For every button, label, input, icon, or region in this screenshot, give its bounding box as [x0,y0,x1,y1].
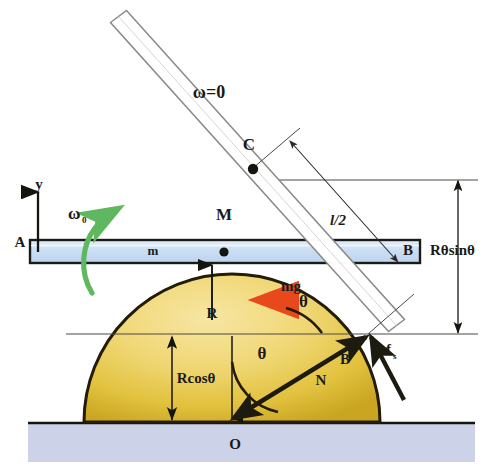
radius-label: R [207,305,218,321]
contact-point-b-label: B [340,351,350,367]
physics-diagram-figure: ω=0 C l/2 y ω 0 A m M B Rθsinθ mg θ R θ … [0,0,503,472]
theta-lower-label: θ [258,344,267,363]
friction-base-label: f [386,341,392,357]
omega-initial-base: ω [68,204,80,223]
half-length-label: l/2 [330,212,346,228]
theta-upper-label: θ [299,292,308,311]
center-of-mass-point [248,164,258,174]
diagram-canvas: ω=0 C l/2 y ω 0 A m M B Rθsinθ mg θ R θ … [0,0,503,472]
normal-force-label: N [316,372,327,388]
omega-initial-subscript: 0 [82,215,87,225]
rcos-theta-label: Rcosθ [177,370,216,386]
omega-zero-label: ω=0 [193,82,225,102]
friction-label: f s [386,341,397,361]
omega-initial-label: ω 0 [68,204,87,225]
ground-slab [28,423,475,462]
friction-subscript-label: s [393,351,397,361]
bar-center-point [219,247,228,256]
point-c-label: C [243,135,255,154]
point-b-bar-label: B [403,242,413,258]
y-axis-label: y [35,176,43,192]
bar-mass-label: m [148,243,159,258]
origin-label: O [229,436,241,452]
rod-mass-label: M [216,205,232,224]
height-expression-label: Rθsinθ [430,242,475,258]
point-a-label: A [15,234,26,250]
